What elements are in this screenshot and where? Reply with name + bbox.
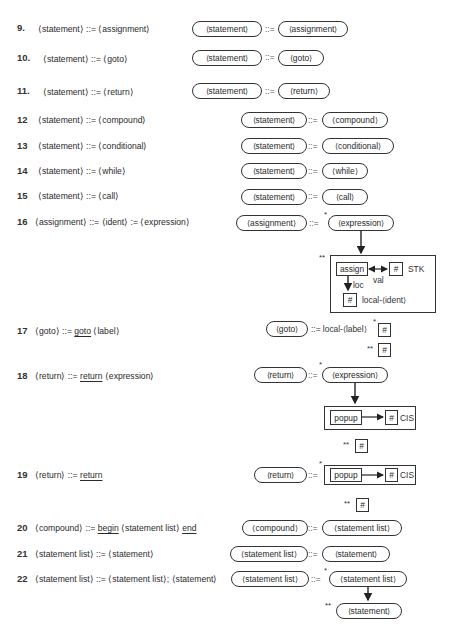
arrow-layer — [0, 0, 449, 631]
